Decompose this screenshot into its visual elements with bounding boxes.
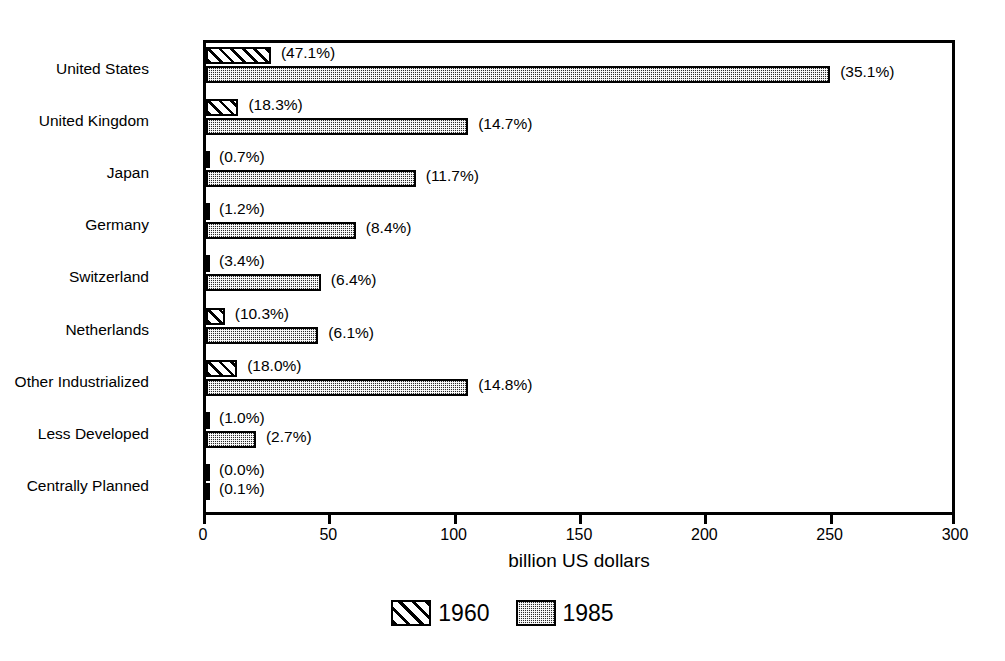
x-axis-tick-label: 300 xyxy=(942,527,969,543)
bar-1960-value-label: (0.7%) xyxy=(219,149,265,165)
bar-1960-value-label: (3.4%) xyxy=(219,253,265,269)
bar-1985-value-label: (8.4%) xyxy=(366,220,412,236)
bars-layer: United States(47.1%)(35.1%)United Kingdo… xyxy=(206,43,955,512)
category-label: Switzerland xyxy=(0,269,149,285)
category-row: Less Developed(1.0%)(2.7%) xyxy=(206,408,955,460)
bar-1960 xyxy=(206,47,271,64)
category-label: Netherlands xyxy=(0,322,149,338)
legend-label-1985: 1985 xyxy=(563,602,614,625)
bar-1960-value-label: (1.2%) xyxy=(219,201,265,217)
category-label: United Kingdom xyxy=(0,113,149,129)
x-axis-tick-label: 200 xyxy=(691,527,718,543)
bar-1960 xyxy=(206,255,210,272)
legend-label-1960: 1960 xyxy=(438,602,489,625)
category-label: Less Developed xyxy=(0,426,149,442)
bar-1960 xyxy=(206,151,210,168)
x-axis-tick xyxy=(830,515,833,524)
category-row: Switzerland(3.4%)(6.4%) xyxy=(206,251,955,303)
category-label: Centrally Planned xyxy=(0,478,149,494)
bar-1985 xyxy=(206,327,318,344)
legend-item-1960: 1960 xyxy=(391,600,489,626)
x-axis-tick-label: 250 xyxy=(816,527,843,543)
x-axis-title: billion US dollars xyxy=(203,551,955,570)
bar-1960 xyxy=(206,203,210,220)
bar-1985 xyxy=(206,483,210,500)
bar-1985 xyxy=(206,118,468,135)
x-axis-tick xyxy=(203,515,206,524)
bar-1985 xyxy=(206,222,356,239)
bar-1985-value-label: (11.7%) xyxy=(426,168,479,184)
category-row: Germany(1.2%)(8.4%) xyxy=(206,199,955,251)
x-axis-tick xyxy=(579,515,582,524)
category-label: Japan xyxy=(0,165,149,181)
bar-1985 xyxy=(206,274,321,291)
bar-1985 xyxy=(206,379,468,396)
x-axis-tick xyxy=(704,515,707,524)
category-row: Centrally Planned(0.0%)(0.1%) xyxy=(206,460,955,512)
category-label: United States xyxy=(0,61,149,77)
category-label: Germany xyxy=(0,217,149,233)
chart-canvas: United States(47.1%)(35.1%)United Kingdo… xyxy=(0,0,1005,661)
bar-1960-value-label: (18.0%) xyxy=(247,358,301,374)
x-axis-tick-label: 100 xyxy=(440,527,467,543)
bar-1985 xyxy=(206,66,830,83)
bar-1960-value-label: (0.0%) xyxy=(219,462,265,478)
category-row: Other Industrialized(18.0%)(14.8%) xyxy=(206,356,955,408)
bar-1960-value-label: (18.3%) xyxy=(248,97,302,113)
bar-1960-value-label: (1.0%) xyxy=(219,410,265,426)
bar-1985 xyxy=(206,431,256,448)
bar-1985-value-label: (0.1%) xyxy=(219,481,265,497)
bar-1960 xyxy=(206,308,225,325)
category-row: United States(47.1%)(35.1%) xyxy=(206,43,955,95)
x-axis-tick xyxy=(328,515,331,524)
legend-swatch-1960-icon xyxy=(391,600,431,626)
x-axis-tick-label: 0 xyxy=(199,527,208,543)
legend-item-1985: 1985 xyxy=(516,600,614,626)
x-axis-tick xyxy=(454,515,457,524)
bar-1985-value-label: (2.7%) xyxy=(266,429,312,445)
legend-swatch-1985-icon xyxy=(516,600,556,626)
category-row: United Kingdom(18.3%)(14.7%) xyxy=(206,95,955,147)
bar-1985-value-label: (14.7%) xyxy=(478,116,532,132)
bar-1960 xyxy=(206,412,210,429)
x-axis-tick xyxy=(952,515,955,524)
x-axis-tick-label: 50 xyxy=(319,527,337,543)
bar-1960 xyxy=(206,99,238,116)
chart-legend: 1960 1985 xyxy=(0,600,1005,626)
bar-1985-value-label: (35.1%) xyxy=(840,64,894,80)
bar-1985-value-label: (6.4%) xyxy=(331,272,377,288)
bar-1985 xyxy=(206,170,416,187)
category-row: Japan(0.7%)(11.7%) xyxy=(206,147,955,199)
x-axis: 050100150200250300 xyxy=(203,515,955,527)
bar-1985-value-label: (14.8%) xyxy=(478,377,532,393)
bar-1960 xyxy=(206,464,210,481)
category-label: Other Industrialized xyxy=(0,374,149,390)
x-axis-tick-label: 150 xyxy=(566,527,593,543)
bar-1960-value-label: (10.3%) xyxy=(235,306,289,322)
category-row: Netherlands(10.3%)(6.1%) xyxy=(206,304,955,356)
bar-1960 xyxy=(206,360,237,377)
bar-1960-value-label: (47.1%) xyxy=(281,45,335,61)
bar-1985-value-label: (6.1%) xyxy=(328,325,374,341)
